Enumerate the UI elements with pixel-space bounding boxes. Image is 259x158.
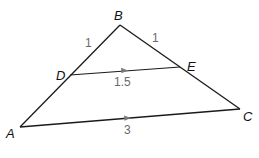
vertex-label-c: C (243, 109, 253, 124)
measure-label-ac: 3 (124, 123, 131, 137)
vertex-label-b: B (114, 8, 123, 23)
side-ab (20, 25, 120, 127)
vertex-label-a: A (5, 126, 15, 141)
parallel-arrow-icon-de (121, 68, 128, 73)
vertex-label-e: E (187, 59, 196, 74)
triangle-diagram: B D E A C 1 1 1.5 3 (0, 0, 259, 158)
measure-label-bd: 1 (85, 36, 92, 50)
measure-label-be: 1 (152, 31, 159, 45)
parallel-arrow-icon-ac (124, 115, 131, 120)
vertex-label-d: D (56, 68, 65, 83)
measure-label-de: 1.5 (114, 75, 131, 89)
